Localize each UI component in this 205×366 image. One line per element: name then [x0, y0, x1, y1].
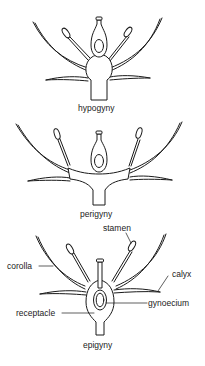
epigyny-stamen-right-filament-2 [114, 252, 132, 282]
epigyny-petal-left [36, 236, 85, 286]
epigyny-stigma [97, 259, 104, 262]
epigyny-stamen-left-filament [72, 254, 88, 282]
perigyny-figure [16, 122, 182, 205]
perigyny-stigma [96, 131, 102, 134]
calyx-leader-line [158, 276, 168, 291]
epigyny-anther-right [127, 240, 137, 252]
caption-hypogyny: hypogyny [78, 104, 114, 113]
caption-perigyny: perigyny [80, 210, 112, 219]
perigyny-sepal-left-lower [28, 180, 70, 181]
hypogyny-petal-right-inner [110, 19, 160, 71]
perigyny-anther-left [53, 128, 61, 140]
perigyny-stamen-left-filament-2 [60, 139, 70, 165]
epigyny-sepal-right-lower [114, 292, 160, 293]
hypogyny-stamen-left-filament [68, 38, 88, 60]
epigyny-petal-left-inner [38, 237, 85, 289]
label-receptacle: receptacle [16, 309, 55, 318]
caption-epigyny: epigyny [83, 341, 112, 350]
epigyny-stamen-right-filament [112, 251, 130, 281]
hypogyny-pistil [91, 20, 107, 57]
hypogyny-stamen-right-filament [108, 36, 127, 60]
hypogyny-anther-left [61, 27, 72, 39]
perigyny-anther-right [135, 127, 143, 139]
hypogyny-figure [33, 17, 162, 100]
perigyny-sepal-right-lower [130, 179, 172, 180]
label-gynoecium: gynoecium [148, 299, 189, 308]
epigyny-petal-right [116, 234, 166, 286]
epigyny-anther-left [65, 243, 75, 255]
label-calyx: calyx [172, 270, 191, 279]
epigyny-figure [36, 233, 168, 335]
label-stamen: stamen [103, 224, 131, 233]
perigyny-petal-left-inner [18, 125, 70, 173]
perigyny-stamen-right-filament-2 [131, 140, 140, 166]
perigyny-stamen-left-filament [58, 140, 68, 166]
epigyny-sepal-left-lower [40, 294, 86, 295]
hypogyny-stamen-right-filament-2 [110, 37, 129, 61]
hypogyny-petal-right [110, 18, 162, 68]
label-corolla: corolla [7, 262, 32, 271]
epigyny-style [98, 262, 102, 288]
hypogyny-stamen-left-filament-2 [70, 37, 90, 58]
perigyny-receptacle [68, 168, 130, 205]
perigyny-pistil [91, 134, 107, 172]
hypogyny-stigma [96, 17, 102, 20]
hypogyny-petal-left [33, 22, 88, 68]
epigyny-stamen-left-filament-2 [74, 253, 90, 281]
hypogyny-sepal-right-lower [110, 78, 150, 80]
hypogyny-receptacle [86, 55, 112, 100]
hypogyny-sepal-left-lower [46, 80, 88, 81]
stamen-leader-line [126, 233, 131, 243]
perigyny-stamen-right-filament [129, 139, 138, 166]
hypogyny-anther-right [123, 26, 134, 38]
perigyny-petal-left [16, 124, 70, 170]
